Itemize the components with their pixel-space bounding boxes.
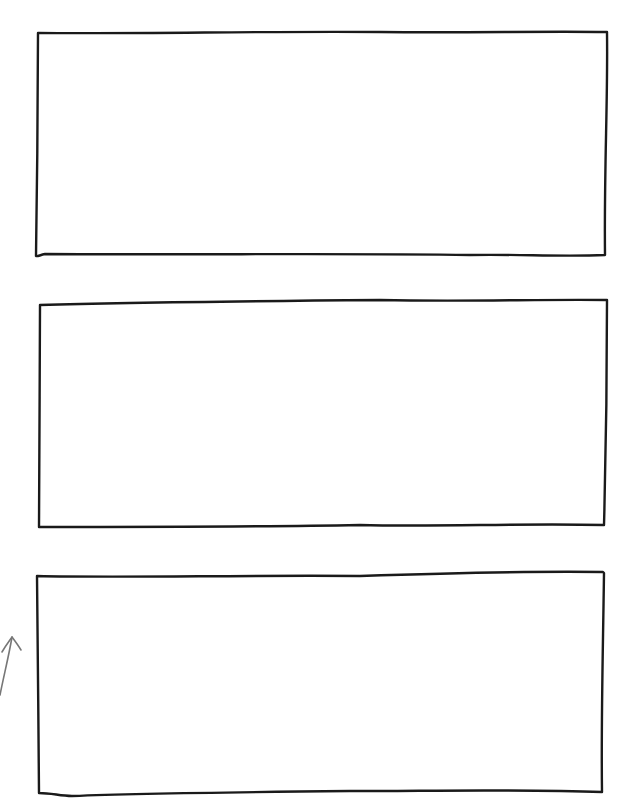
box-3 xyxy=(37,572,604,796)
box-2 xyxy=(39,300,607,527)
diagram-canvas xyxy=(0,0,634,812)
box-1 xyxy=(36,32,607,257)
arrow-up-icon xyxy=(0,637,21,695)
